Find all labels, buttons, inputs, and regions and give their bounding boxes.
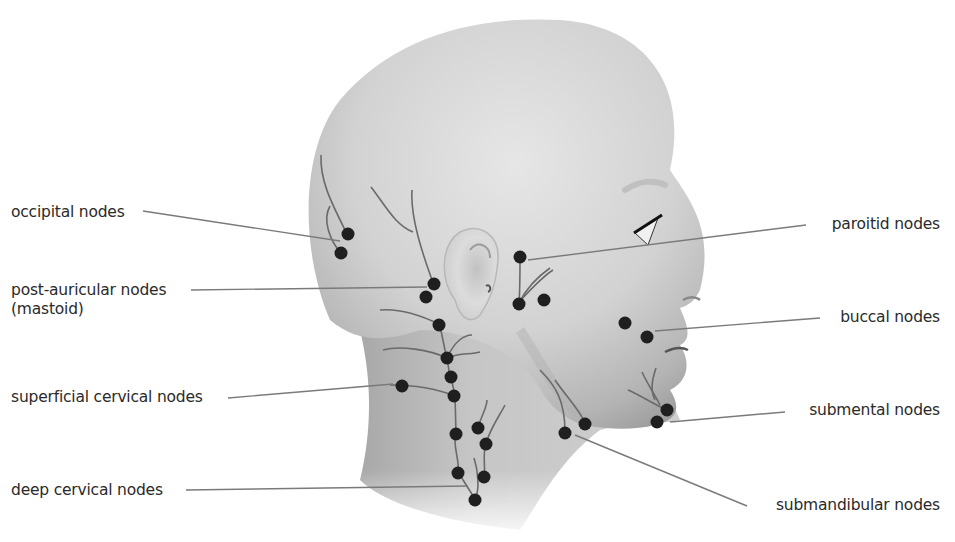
cervical-node	[448, 390, 461, 403]
head-illustration	[0, 0, 955, 542]
occipital-node	[342, 228, 355, 241]
label-buccal-nodes: buccal nodes	[840, 308, 940, 327]
cervical-node	[433, 319, 446, 332]
lymph-node-diagram: occipital nodes post-auricular nodes (ma…	[0, 0, 955, 542]
label-occipital-nodes: occipital nodes	[11, 203, 125, 222]
superficial-cervical-node	[396, 380, 409, 393]
deep-cervical-node	[452, 467, 465, 480]
post-auricular-node	[420, 291, 433, 304]
leader-superficial-cervical	[228, 384, 393, 398]
deep-cervical-node	[469, 494, 482, 507]
submandibular-node	[559, 427, 572, 440]
label-submandibular-nodes: submandibular nodes	[776, 496, 940, 515]
parotid-node	[538, 294, 551, 307]
label-paroitid-nodes: paroitid nodes	[832, 215, 940, 234]
buccal-node	[619, 317, 632, 330]
label-mastoid: (mastoid)	[11, 300, 84, 319]
label-deep-cervical-nodes: deep cervical nodes	[11, 481, 163, 500]
parotid-node	[513, 298, 526, 311]
label-post-auricular-nodes: post-auricular nodes	[11, 281, 166, 300]
deep-cervical-node	[450, 428, 463, 441]
deep-cervical-node	[480, 438, 493, 451]
submandibular-node	[579, 418, 592, 431]
post-auricular-node	[428, 278, 441, 291]
cervical-node	[445, 371, 458, 384]
label-superficial-cervical-nodes: superficial cervical nodes	[11, 388, 203, 407]
buccal-node	[641, 331, 654, 344]
submental-node	[651, 416, 664, 429]
leader-submental	[670, 412, 785, 422]
deep-cervical-node	[472, 422, 485, 435]
cervical-node	[441, 352, 454, 365]
submental-node	[661, 404, 674, 417]
deep-cervical-node	[478, 471, 491, 484]
label-submental-nodes: submental nodes	[809, 401, 940, 420]
occipital-node	[335, 247, 348, 260]
parotid-node	[514, 251, 527, 264]
